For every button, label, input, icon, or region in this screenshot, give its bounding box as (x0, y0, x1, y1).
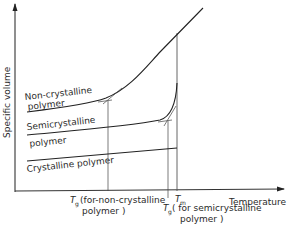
tg-semi-text1: ( for semicrystalline (172, 203, 262, 213)
tg-semicrystalline-label: T g ( for semicrystalline polymer ) (163, 203, 262, 224)
tg-non-crystalline-label: T g (for-non-crystalline polymer ) (70, 195, 166, 216)
tg-non-crystalline-text2: polymer ) (82, 206, 125, 216)
tg-subscript: g (75, 200, 79, 208)
tg-semi-text2: polymer ) (180, 214, 223, 224)
tg-tangent-melt (103, 88, 122, 104)
tg-non-crystalline-text1: (for-non-crystalline (80, 195, 166, 205)
diagram-canvas: Specific volume Temperature Non-crystall… (0, 0, 287, 226)
x-axis (15, 189, 284, 191)
semicrystalline-label-line2: polymer (29, 135, 67, 149)
tg-semi-tangent-melt (164, 106, 176, 126)
y-axis-label: Specific volume (2, 66, 12, 138)
non-crystalline-label: Non-crystalline polymer (24, 85, 94, 112)
